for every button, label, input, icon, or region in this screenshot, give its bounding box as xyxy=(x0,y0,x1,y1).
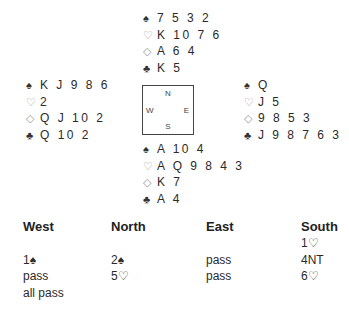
south-clubs: ♣A 4 xyxy=(143,191,245,208)
bid: 2♠ xyxy=(111,252,206,269)
west-hearts: ♡2 xyxy=(26,94,110,111)
east-hearts: ♡J 5 xyxy=(244,94,342,111)
bid xyxy=(23,235,111,252)
east-hand: ♠Q ♡J 5 ◇9 8 5 3 ♣J 9 8 7 6 3 xyxy=(244,77,342,143)
diamond-icon: ◇ xyxy=(143,174,157,191)
heart-icon: ♡ xyxy=(143,27,157,44)
bid: all pass xyxy=(23,285,111,302)
east-diamonds: ◇9 8 5 3 xyxy=(244,110,342,127)
north-spades: ♠7 5 3 2 xyxy=(143,10,222,27)
east-clubs: ♣J 9 8 7 6 3 xyxy=(244,127,342,144)
diamond-icon: ◇ xyxy=(143,43,157,60)
west-spades: ♠K J 9 8 6 xyxy=(26,77,110,94)
south-hearts: ♡A Q 9 8 4 3 xyxy=(143,158,245,175)
club-icon: ♣ xyxy=(244,127,258,144)
compass-west: W xyxy=(146,106,154,115)
west-hand: ♠K J 9 8 6 ♡2 ◇Q J 10 2 ♣Q 10 2 xyxy=(26,77,110,143)
bidding-row: pass 5♡ pass 6♡ xyxy=(23,268,349,285)
club-icon: ♣ xyxy=(143,60,157,77)
north-hand: ♠7 5 3 2 ♡K 10 7 6 ◇A 6 4 ♣K 5 xyxy=(143,10,222,76)
bid xyxy=(206,235,301,252)
bidding-table: West North East South 1♡ 1♠ 2♠ pass 4NT … xyxy=(23,218,349,301)
south-spades: ♠A 10 4 xyxy=(143,141,245,158)
west-diamonds: ◇Q J 10 2 xyxy=(26,110,110,127)
bid: pass xyxy=(206,252,301,269)
club-icon: ♣ xyxy=(26,127,40,144)
club-icon: ♣ xyxy=(143,191,157,208)
heart-icon: ♡ xyxy=(143,158,157,175)
bidding-row: 1♠ 2♠ pass 4NT xyxy=(23,252,349,269)
compass-north: N xyxy=(165,89,171,98)
bidding-row: all pass xyxy=(23,285,349,302)
header-east: East xyxy=(206,218,301,235)
bid: 1♡ xyxy=(301,235,349,252)
spade-icon: ♠ xyxy=(143,10,157,27)
east-spades: ♠Q xyxy=(244,77,342,94)
heart-icon: ♡ xyxy=(244,94,258,111)
compass-east: E xyxy=(184,106,189,115)
north-hearts: ♡K 10 7 6 xyxy=(143,27,222,44)
north-diamonds: ◇A 6 4 xyxy=(143,43,222,60)
spade-icon: ♠ xyxy=(26,77,40,94)
bid xyxy=(206,285,301,302)
compass-south: S xyxy=(165,122,170,131)
bid: 4NT xyxy=(301,252,349,269)
header-west: West xyxy=(23,218,111,235)
spade-icon: ♠ xyxy=(143,141,157,158)
compass-box: N W E S xyxy=(142,85,194,135)
bid: 1♠ xyxy=(23,252,111,269)
bid: 6♡ xyxy=(301,268,349,285)
bid xyxy=(111,285,206,302)
diamond-icon: ◇ xyxy=(244,110,258,127)
bid: pass xyxy=(206,268,301,285)
header-south: South xyxy=(301,218,349,235)
spade-icon: ♠ xyxy=(244,77,258,94)
bid xyxy=(111,235,206,252)
bidding-header: West North East South xyxy=(23,218,349,235)
north-clubs: ♣K 5 xyxy=(143,60,222,77)
bid: 5♡ xyxy=(111,268,206,285)
diamond-icon: ◇ xyxy=(26,110,40,127)
west-clubs: ♣Q 10 2 xyxy=(26,127,110,144)
south-diamonds: ◇K 7 xyxy=(143,174,245,191)
bid xyxy=(301,285,349,302)
bid: pass xyxy=(23,268,111,285)
south-hand: ♠A 10 4 ♡A Q 9 8 4 3 ◇K 7 ♣A 4 xyxy=(143,141,245,207)
heart-icon: ♡ xyxy=(26,94,40,111)
bidding-row: 1♡ xyxy=(23,235,349,252)
header-north: North xyxy=(111,218,206,235)
